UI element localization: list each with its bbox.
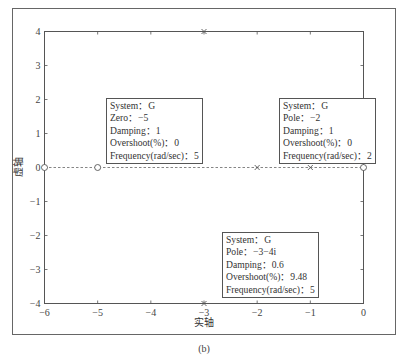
x-tick-label: −3 xyxy=(199,307,210,318)
y-tick-label: 2 xyxy=(36,94,41,105)
annotation-line: System：G xyxy=(110,100,199,112)
annotation-line: Frequency(rad/sec)：5 xyxy=(110,150,199,162)
figure-caption: (b) xyxy=(198,343,210,355)
zero-marker xyxy=(95,165,101,171)
annotation-line: Damping：1 xyxy=(110,125,199,137)
y-tick-label: 4 xyxy=(36,26,41,37)
x-tick-label: −2 xyxy=(252,307,263,318)
x-tick-label: −4 xyxy=(146,307,157,318)
annotation-pole-minus3-minus4i: System：G Pole：−3−4i Damping：0.6 Overshoo… xyxy=(222,232,319,298)
y-tick-label: −3 xyxy=(30,264,41,275)
x-tick-label: −6 xyxy=(39,307,50,318)
zero-marker xyxy=(42,165,48,171)
annotation-line: Overshoot(%)：0 xyxy=(110,137,199,149)
annotation-line: Zero：−5 xyxy=(110,112,199,124)
pole-zero-figure: −6−5−4−3−2−10 −4−3−2−101234 实轴 虚轴 (b) xyxy=(0,0,407,359)
annotation-line: Pole：−3−4i xyxy=(226,246,315,258)
y-tick-label: 1 xyxy=(36,128,41,139)
y-tick-label: −2 xyxy=(30,230,41,241)
annotation-line: System：G xyxy=(226,234,315,246)
x-tick-label: −1 xyxy=(305,307,316,318)
y-tick-label: 0 xyxy=(36,162,41,173)
annotation-pole-minus2: System：G Pole：−2 Damping：1 Overshoot(%)：… xyxy=(279,98,376,164)
x-tick-label: −5 xyxy=(92,307,103,318)
annotation-line: Frequency(rad/sec)：5 xyxy=(226,284,315,296)
annotation-zero-minus5: System：G Zero：−5 Damping：1 Overshoot(%)：… xyxy=(106,98,203,164)
annotation-line: Damping：0.6 xyxy=(226,259,315,271)
y-axis-title: 虚轴 xyxy=(12,157,24,177)
x-axis-title: 实轴 xyxy=(194,316,214,328)
annotation-line: Damping：1 xyxy=(283,125,372,137)
zero-marker xyxy=(361,165,367,171)
y-tick-label: −1 xyxy=(30,196,41,207)
annotation-line: System：G xyxy=(283,100,372,112)
y-tick-label: 3 xyxy=(36,60,41,71)
annotation-line: Pole：−2 xyxy=(283,112,372,124)
annotation-line: Overshoot(%)：9.48 xyxy=(226,271,315,283)
y-tick-label: −4 xyxy=(30,298,41,309)
x-tick-label: 0 xyxy=(361,307,366,318)
annotation-line: Overshoot(%)：0 xyxy=(283,137,372,149)
annotation-line: Frequency(rad/sec)：2 xyxy=(283,150,372,162)
